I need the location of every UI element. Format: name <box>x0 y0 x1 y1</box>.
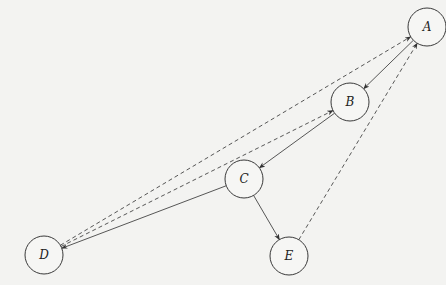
edge-a-to-b <box>364 40 414 88</box>
node-c: C <box>225 160 263 198</box>
edge-e-to-a <box>299 43 417 239</box>
node-b: B <box>331 83 369 121</box>
node-label: D <box>38 248 49 262</box>
node-a: A <box>408 8 446 46</box>
node-label: C <box>239 172 248 186</box>
edges-layer <box>60 37 417 249</box>
graph-canvas: ABCDE <box>0 0 446 285</box>
node-label: A <box>422 20 432 34</box>
edge-c-to-d <box>62 186 226 249</box>
node-d: D <box>25 236 63 274</box>
node-label: B <box>345 95 355 109</box>
edge-d-to-b <box>61 110 333 246</box>
node-label: E <box>284 249 294 263</box>
edge-b-to-c <box>259 113 334 168</box>
edge-c-to-e <box>254 195 280 239</box>
node-e: E <box>270 237 308 275</box>
